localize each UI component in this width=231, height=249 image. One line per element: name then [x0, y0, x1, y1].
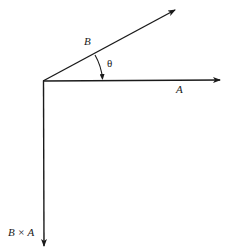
vector-a-label: A: [175, 83, 183, 95]
theta-arc-icon: [95, 55, 103, 79]
vector-bxa-label: B × A: [8, 226, 34, 238]
vector-a-arrow: [43, 80, 220, 81]
vector-b-label: B: [84, 35, 91, 47]
vector-b-arrow: [43, 10, 175, 81]
cross-product-diagram: A B B × A θ: [0, 0, 231, 249]
vector-bxa-arrow: [44, 81, 45, 246]
angle-theta-label: θ: [107, 57, 112, 69]
